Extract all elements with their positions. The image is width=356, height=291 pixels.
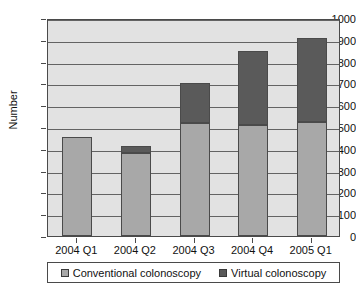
bar-segment-virtual[interactable]	[180, 83, 210, 122]
bar-group[interactable]	[62, 18, 92, 236]
legend-swatch-icon	[219, 269, 227, 277]
bar-segment-conventional[interactable]	[62, 137, 92, 236]
x-tick-mark	[76, 238, 77, 243]
bar-segment-virtual[interactable]	[238, 51, 268, 125]
y-tick-mark	[41, 172, 46, 173]
plot-area	[47, 19, 340, 237]
x-tick-mark	[252, 238, 253, 243]
x-tick-mark	[311, 238, 312, 243]
bar-segment-conventional[interactable]	[121, 153, 151, 236]
bar-group[interactable]	[121, 18, 151, 236]
x-tick-mark	[194, 238, 195, 243]
legend-item[interactable]: Conventional colonoscopy	[61, 267, 201, 279]
x-tick-mark	[135, 238, 136, 243]
bar-segment-virtual[interactable]	[121, 146, 151, 154]
bar-segment-virtual[interactable]	[297, 38, 327, 122]
x-tick-label: 2005 Q1	[275, 244, 347, 256]
y-tick-mark	[41, 63, 46, 64]
y-tick-mark	[41, 193, 46, 194]
y-tick-mark	[41, 84, 46, 85]
bar-segment-conventional[interactable]	[238, 125, 268, 236]
bar-segment-conventional[interactable]	[297, 122, 327, 236]
bars-layer	[48, 20, 339, 236]
y-tick-mark	[41, 19, 46, 20]
y-tick-mark	[41, 237, 46, 238]
y-tick-mark	[41, 215, 46, 216]
legend-item[interactable]: Virtual colonoscopy	[219, 267, 326, 279]
chart-legend: Conventional colonoscopyVirtual colonosc…	[47, 262, 340, 283]
bar-segment-conventional[interactable]	[180, 123, 210, 236]
y-tick-mark	[41, 150, 46, 151]
y-tick-mark	[41, 128, 46, 129]
y-tick-mark	[41, 41, 46, 42]
legend-swatch-icon	[61, 269, 69, 277]
y-tick-mark	[41, 106, 46, 107]
y-axis-title: Number	[7, 75, 19, 145]
legend-item-label: Conventional colonoscopy	[73, 267, 201, 279]
bar-group[interactable]	[297, 18, 327, 236]
bar-group[interactable]	[180, 18, 210, 236]
bar-group[interactable]	[238, 18, 268, 236]
legend-item-label: Virtual colonoscopy	[231, 267, 326, 279]
stacked-bar-chart: Number 01002003004005006007008009001000 …	[0, 0, 356, 291]
